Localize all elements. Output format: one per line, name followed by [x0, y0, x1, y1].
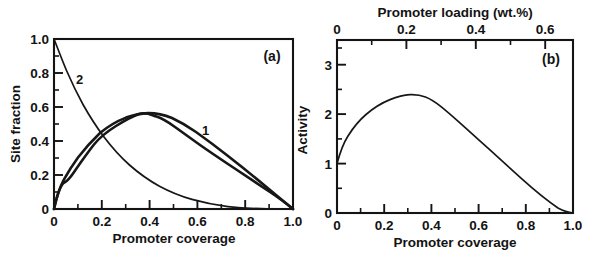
panel-b-top-tick-label-2: 0.4: [466, 22, 485, 37]
panel-b-xtick-label-3: 0.6: [469, 218, 488, 233]
panel-a-ytick-label-4: 0.8: [30, 66, 49, 81]
panel-a-xtick-label-2: 0.4: [140, 214, 159, 229]
figure-container: 0 0.2 0.4 0.6 0.8 1.0 0 0.2 0.4 0.6 0.8 …: [0, 0, 604, 259]
panel-a-label: (a): [263, 48, 280, 64]
panel-b-ytick-label-2: 2: [324, 107, 332, 122]
panel-b-xtick-label-0: 0: [333, 218, 341, 233]
panel-a-yaxis-title: Site fraction: [8, 85, 23, 163]
panel-b-ytick-label-0: 0: [324, 206, 332, 221]
panel-a-xtick-label-1: 0.2: [92, 214, 111, 229]
panel-b-label: (b): [542, 51, 560, 67]
figure-svg: 0 0.2 0.4 0.6 0.8 1.0 0 0.2 0.4 0.6 0.8 …: [0, 0, 604, 259]
panel-a-ytick-label-3: 0.6: [30, 100, 49, 115]
panel-a-curve-label-1: 1: [202, 123, 209, 138]
panel-a-ytick-label-2: 0.4: [30, 134, 49, 149]
panel-a-ytick-label-5: 1.0: [30, 32, 49, 47]
panel-b-ytick-label-1: 1: [324, 157, 332, 172]
panel-b-yaxis-title: Activity: [295, 105, 310, 154]
panel-b-top-tick-label-3: 0.6: [536, 22, 555, 37]
panel-a-xaxis-title: Promoter coverage: [112, 231, 236, 246]
panel-b-top-axis-title: Promoter loading (wt.%): [377, 5, 532, 20]
panel-a-xtick-label-0: 0: [50, 214, 58, 229]
panel-b-xtick-label-5: 1.0: [564, 218, 583, 233]
panel-b-xtick-label-2: 0.4: [422, 218, 441, 233]
panel-b-xaxis-title: Promoter coverage: [393, 235, 517, 250]
panel-b-xtick-label-1: 0.2: [375, 218, 394, 233]
panel-b-ytick-label-3: 3: [324, 58, 332, 73]
panel-a-ytick-label-1: 0.2: [30, 168, 49, 183]
panel-a-curve-label-2: 2: [76, 72, 83, 87]
panel-a-xtick-label-3: 0.6: [188, 214, 207, 229]
panel-a-xtick-label-5: 1.0: [284, 214, 303, 229]
panel-b-top-tick-label-1: 0.2: [397, 22, 416, 37]
panel-a-xtick-label-4: 0.8: [236, 214, 255, 229]
panel-b-top-tick-label-0: 0: [333, 22, 341, 37]
panel-b-xtick-label-4: 0.8: [516, 218, 535, 233]
panel-a-ytick-label-0: 0: [41, 202, 49, 217]
